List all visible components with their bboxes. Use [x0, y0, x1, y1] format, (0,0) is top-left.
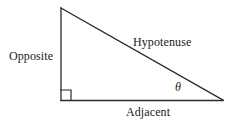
theta-angle-label: θ	[175, 81, 181, 93]
adjacent-side-label: Adjacent	[126, 106, 170, 118]
hypotenuse-side-label: Hypotenuse	[133, 36, 191, 48]
hypotenuse-side-line	[61, 8, 223, 100]
opposite-side-label: Opposite	[9, 50, 53, 62]
triangle-diagram-canvas: Opposite Hypotenuse Adjacent θ	[0, 0, 232, 122]
right-angle-marker-icon	[61, 90, 71, 100]
